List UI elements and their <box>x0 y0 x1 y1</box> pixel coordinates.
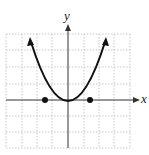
x-axis-arrow-icon <box>133 97 140 103</box>
x-axis-label: x <box>141 91 147 107</box>
y-axis-label: y <box>64 8 70 24</box>
y-axis-arrow-icon <box>65 24 71 31</box>
curve-arrow-left-icon <box>27 37 34 46</box>
x-intercept-left <box>42 97 48 103</box>
curve-arrow-right-icon <box>102 37 109 46</box>
axes <box>6 30 134 148</box>
graph-canvas <box>0 0 149 155</box>
x-intercept-right <box>87 97 93 103</box>
